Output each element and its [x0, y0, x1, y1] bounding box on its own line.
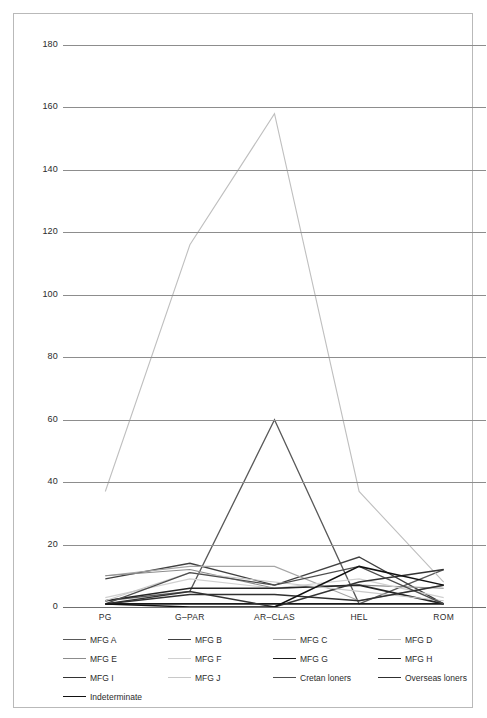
y-tick-label: 160 — [30, 102, 58, 111]
legend-item-label: MFG B — [195, 635, 222, 645]
legend-item[interactable]: Indeterminate — [63, 689, 142, 704]
y-tick-label: 120 — [30, 227, 58, 236]
y-tick-label: 40 — [30, 477, 58, 486]
y-tick-label: 80 — [30, 352, 58, 361]
legend-item[interactable]: MFG B — [168, 632, 222, 647]
chart-legend: MFG AMFG BMFG CMFG DMFG EMFG FMFG GMFG H… — [63, 632, 483, 706]
legend-item[interactable]: MFG J — [168, 670, 221, 685]
legend-item-label: Indeterminate — [90, 692, 142, 702]
gridline — [63, 170, 486, 171]
legend-item-label: MFG A — [90, 635, 116, 645]
series-line — [105, 114, 443, 582]
chart-figure-frame: 020406080100120140160180 PGG–PARAR–CLASH… — [13, 13, 473, 708]
plot-area — [63, 45, 486, 607]
x-axis-baseline — [63, 607, 486, 608]
y-tick-label: 180 — [30, 40, 58, 49]
gridline — [63, 357, 486, 358]
line-series-svg — [63, 45, 486, 607]
legend-color-swatch — [273, 677, 296, 678]
legend-color-swatch — [378, 658, 401, 659]
gridline — [63, 45, 486, 46]
y-tick-label: 60 — [30, 415, 58, 424]
legend-item-label: Cretan loners — [300, 673, 351, 683]
legend-color-swatch — [168, 639, 191, 640]
legend-item-label: MFG E — [90, 654, 117, 664]
legend-item[interactable]: Cretan loners — [273, 670, 351, 685]
legend-item[interactable]: MFG H — [378, 651, 432, 666]
legend-item-label: MFG C — [300, 635, 327, 645]
legend-color-swatch — [168, 658, 191, 659]
gridline — [63, 107, 486, 108]
legend-item[interactable]: MFG I — [63, 670, 114, 685]
legend-color-swatch — [63, 639, 86, 640]
legend-item-label: MFG F — [195, 654, 221, 664]
legend-item-label: Overseas loners — [405, 673, 467, 683]
legend-item-label: MFG H — [405, 654, 432, 664]
gridline — [63, 295, 486, 296]
x-tick-label: ROM — [433, 612, 454, 622]
x-tick-label: HEL — [350, 612, 367, 622]
legend-color-swatch — [378, 677, 401, 678]
y-tick-label: 100 — [30, 290, 58, 299]
gridline — [63, 420, 486, 421]
legend-item[interactable]: MFG C — [273, 632, 327, 647]
legend-item-label: MFG D — [405, 635, 432, 645]
legend-item[interactable]: MFG E — [63, 651, 117, 666]
legend-color-swatch — [168, 677, 191, 678]
x-tick-label: G–PAR — [175, 612, 205, 622]
legend-item[interactable]: Overseas loners — [378, 670, 467, 685]
legend-color-swatch — [273, 639, 296, 640]
gridline — [63, 545, 486, 546]
y-tick-label: 0 — [30, 602, 58, 611]
legend-color-swatch — [63, 677, 86, 678]
x-tick-label: PG — [99, 612, 112, 622]
legend-item-label: MFG I — [90, 673, 114, 683]
legend-color-swatch — [63, 658, 86, 659]
legend-item-label: MFG G — [300, 654, 328, 664]
gridline — [63, 482, 486, 483]
legend-item[interactable]: MFG D — [378, 632, 432, 647]
legend-color-swatch — [378, 639, 401, 640]
x-axis-tick-labels: PGG–PARAR–CLASHELROM — [63, 612, 486, 628]
y-tick-label: 20 — [30, 540, 58, 549]
legend-item[interactable]: MFG A — [63, 632, 116, 647]
gridline — [63, 232, 486, 233]
legend-color-swatch — [273, 658, 296, 659]
y-tick-label: 140 — [30, 165, 58, 174]
legend-item[interactable]: MFG F — [168, 651, 221, 666]
x-tick-label: AR–CLAS — [254, 612, 295, 622]
legend-color-swatch — [63, 696, 86, 697]
legend-item-label: MFG J — [195, 673, 221, 683]
legend-item[interactable]: MFG G — [273, 651, 328, 666]
